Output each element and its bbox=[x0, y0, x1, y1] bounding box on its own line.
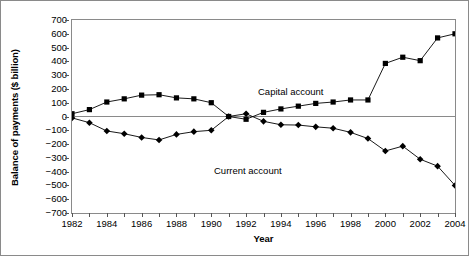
y-axis-tick-mark bbox=[65, 185, 69, 186]
x-axis-tick-label: 1992 bbox=[236, 218, 257, 229]
data-point-marker bbox=[87, 107, 92, 112]
data-point-marker bbox=[243, 117, 248, 122]
x-axis-tick-mark bbox=[316, 213, 317, 217]
x-axis-tick-label: 1984 bbox=[96, 218, 117, 229]
x-axis-tick-mark bbox=[107, 213, 108, 217]
x-axis-tick-mark bbox=[455, 213, 456, 217]
y-axis-tick-label: −600 bbox=[29, 194, 67, 204]
x-axis-tick-mark bbox=[124, 213, 125, 217]
x-axis-tick-mark bbox=[281, 213, 282, 217]
data-point-marker bbox=[331, 99, 336, 104]
x-axis-tick-mark bbox=[89, 213, 90, 217]
data-point-marker bbox=[365, 97, 370, 102]
data-point-marker bbox=[400, 55, 405, 60]
y-axis-tick-mark bbox=[65, 130, 69, 131]
data-point-marker bbox=[295, 122, 302, 129]
x-axis-tick-label: 2004 bbox=[444, 218, 465, 229]
y-axis-tick-label: 600 bbox=[29, 29, 67, 39]
chart-figure: Balance of payments ($ billion) 70060050… bbox=[0, 0, 469, 256]
y-axis-tick-label: 200 bbox=[29, 84, 67, 94]
x-axis-tick-mark bbox=[176, 213, 177, 217]
data-point-marker bbox=[435, 35, 440, 40]
series-label-capital-account: Capital account bbox=[258, 86, 323, 97]
x-axis-tick-mark bbox=[142, 213, 143, 217]
data-point-marker bbox=[191, 128, 198, 135]
data-point-marker bbox=[418, 58, 423, 63]
y-axis-tick-label: 400 bbox=[29, 56, 67, 66]
data-point-marker bbox=[139, 93, 144, 98]
x-axis-tick-mark bbox=[211, 213, 212, 217]
x-axis-tick-label: 1986 bbox=[131, 218, 152, 229]
y-axis-tick-label: 700 bbox=[29, 15, 67, 25]
data-point-marker bbox=[417, 156, 424, 163]
series-canvas bbox=[72, 20, 455, 213]
y-axis-tick-mark bbox=[65, 144, 69, 145]
x-axis-tick-mark bbox=[159, 213, 160, 217]
plot-area: Capital account Current account bbox=[71, 19, 456, 214]
y-axis-tick-mark bbox=[65, 89, 69, 90]
y-axis-tick-label: −300 bbox=[29, 153, 67, 163]
y-axis-tick-mark bbox=[65, 117, 69, 118]
y-axis-tick-mark bbox=[65, 199, 69, 200]
x-axis-ticks: 1982198419861988199019921994199619982000… bbox=[71, 216, 456, 232]
data-point-marker bbox=[278, 121, 285, 128]
y-axis-tick-mark bbox=[65, 172, 69, 173]
series-current-account bbox=[72, 110, 455, 188]
data-point-marker bbox=[156, 92, 161, 97]
data-point-marker bbox=[173, 131, 180, 138]
data-point-marker bbox=[312, 124, 319, 131]
y-axis-tick-mark bbox=[65, 34, 69, 35]
x-axis-tick-label: 1990 bbox=[201, 218, 222, 229]
data-point-marker bbox=[313, 101, 318, 106]
x-axis-tick-mark bbox=[351, 213, 352, 217]
x-axis-tick-label: 2000 bbox=[375, 218, 396, 229]
x-axis-tick-mark bbox=[264, 213, 265, 217]
y-axis-tick-mark bbox=[65, 158, 69, 159]
x-axis-tick-mark bbox=[420, 213, 421, 217]
y-axis-tick-mark bbox=[65, 20, 69, 21]
series-capital-account bbox=[72, 31, 455, 122]
x-axis-tick-mark bbox=[385, 213, 386, 217]
series-label-current-account: Current account bbox=[214, 165, 282, 176]
x-axis-tick-mark bbox=[438, 213, 439, 217]
x-axis-tick-label: 2002 bbox=[410, 218, 431, 229]
y-axis-tick-label: −100 bbox=[29, 125, 67, 135]
data-point-marker bbox=[191, 96, 196, 101]
series-line bbox=[72, 34, 455, 119]
x-axis-tick-mark bbox=[246, 213, 247, 217]
x-axis-tick-label: 1994 bbox=[270, 218, 291, 229]
y-axis-tick-label: −500 bbox=[29, 180, 67, 190]
data-point-marker bbox=[347, 129, 354, 136]
x-axis-tick-mark bbox=[298, 213, 299, 217]
data-point-marker bbox=[383, 61, 388, 66]
data-point-marker bbox=[452, 31, 455, 36]
data-point-marker bbox=[104, 99, 109, 104]
y-axis-tick-label: 500 bbox=[29, 43, 67, 53]
x-axis-tick-mark bbox=[333, 213, 334, 217]
data-point-marker bbox=[138, 134, 145, 141]
data-point-marker bbox=[348, 97, 353, 102]
x-axis-tick-label: 1988 bbox=[166, 218, 187, 229]
y-axis-tick-mark bbox=[65, 75, 69, 76]
y-axis-tick-mark bbox=[65, 48, 69, 49]
y-axis-title-text: Balance of payments ($ billion) bbox=[9, 49, 20, 186]
x-axis-tick-label: 1996 bbox=[305, 218, 326, 229]
y-axis-tick-label: 100 bbox=[29, 98, 67, 108]
y-axis-tick-label: 300 bbox=[29, 70, 67, 80]
y-axis-tick-mark bbox=[65, 61, 69, 62]
data-point-marker bbox=[121, 130, 128, 137]
x-axis-tick-mark bbox=[368, 213, 369, 217]
x-axis-title: Year bbox=[71, 233, 456, 244]
y-axis-ticks: 7006005004003002001000−100−200−300−400−5… bbox=[23, 19, 67, 214]
data-point-marker bbox=[261, 110, 266, 115]
data-point-marker bbox=[209, 100, 214, 105]
data-point-marker bbox=[260, 118, 267, 125]
y-axis-tick-label: −400 bbox=[29, 167, 67, 177]
data-point-marker bbox=[365, 135, 372, 142]
data-point-marker bbox=[86, 119, 93, 126]
x-axis-tick-mark bbox=[72, 213, 73, 217]
data-point-marker bbox=[330, 125, 337, 132]
x-axis-tick-mark bbox=[403, 213, 404, 217]
data-point-marker bbox=[296, 104, 301, 109]
data-point-marker bbox=[174, 95, 179, 100]
